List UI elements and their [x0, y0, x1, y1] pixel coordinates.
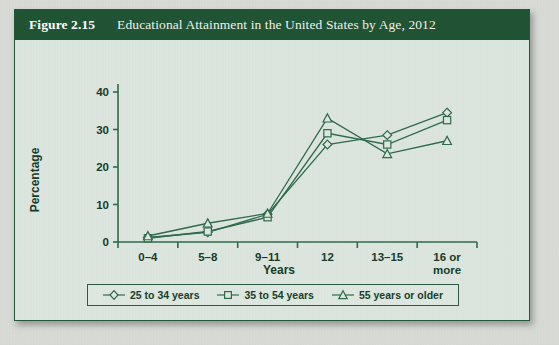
- figure-header: Figure 2.15 Educational Attainment in th…: [15, 10, 529, 40]
- y-tick-label: 40: [96, 86, 109, 98]
- legend-label: 25 to 34 years: [130, 289, 199, 301]
- x-tick-label: 13–15: [371, 251, 404, 263]
- y-tick-label: 20: [96, 161, 109, 173]
- y-axis: 010203040: [96, 84, 118, 248]
- data-point-marker: [443, 117, 450, 124]
- data-point-marker: [204, 228, 211, 235]
- legend-item: 55 years or older: [332, 289, 443, 301]
- data-point-marker: [324, 130, 331, 137]
- x-tick-label: 12: [321, 251, 334, 263]
- x-tick-label: 0–4: [138, 251, 158, 263]
- x-axis-title: Years: [263, 263, 295, 277]
- figure-panel: Figure 2.15 Educational Attainment in th…: [14, 9, 530, 321]
- data-point-marker: [323, 114, 332, 122]
- legend-item: 35 to 54 years: [217, 289, 313, 301]
- figure-number: Figure 2.15: [29, 17, 95, 33]
- y-axis-title: Percentage: [28, 147, 42, 212]
- legend-item: 25 to 34 years: [103, 289, 199, 301]
- legend-label: 55 years or older: [359, 289, 443, 301]
- data-point-marker: [443, 136, 452, 144]
- y-tick-label: 10: [96, 199, 109, 211]
- square-icon: [217, 289, 239, 301]
- chart-legend: 25 to 34 years 35 to 54 years 55 years o…: [87, 284, 459, 306]
- x-tick-label: 5–8: [198, 251, 218, 263]
- chart-svg: 010203040 0–45–89–111213–1516 ormore Per…: [15, 40, 531, 280]
- series-layer: [144, 108, 452, 242]
- data-point-marker: [383, 131, 392, 140]
- x-tick-label: 9–11: [255, 251, 281, 263]
- x-tick-label: more: [433, 264, 461, 276]
- data-point-marker: [443, 108, 452, 117]
- figure-title: Educational Attainment in the United Sta…: [117, 17, 436, 33]
- line-chart: 010203040 0–45–89–111213–1516 ormore Per…: [15, 40, 531, 280]
- y-tick-label: 0: [103, 236, 109, 248]
- diamond-icon: [103, 289, 125, 301]
- data-point-marker: [384, 141, 391, 148]
- legend-label: 35 to 54 years: [244, 289, 313, 301]
- figure-body: 010203040 0–45–89–111213–1516 ormore Per…: [15, 40, 529, 320]
- x-axis: 0–45–89–111213–1516 ormore: [118, 242, 477, 276]
- x-tick-label: 16 or: [433, 251, 461, 263]
- triangle-icon: [332, 289, 354, 301]
- y-tick-label: 30: [96, 124, 109, 136]
- series-line: [148, 118, 447, 236]
